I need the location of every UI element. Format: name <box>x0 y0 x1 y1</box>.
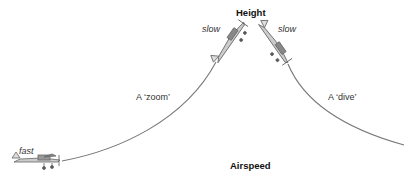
dive-curve <box>288 64 404 145</box>
height-label: Height <box>236 8 266 18</box>
dive-label: A ‘dive’ <box>328 92 357 102</box>
fast-label: fast <box>19 146 34 156</box>
airspeed-label: Airspeed <box>230 161 271 171</box>
slow-label-right: slow <box>278 24 296 34</box>
slow-label-left: slow <box>202 24 220 34</box>
zoom-curve <box>62 62 216 161</box>
zoom-label: A ‘zoom’ <box>136 92 170 102</box>
